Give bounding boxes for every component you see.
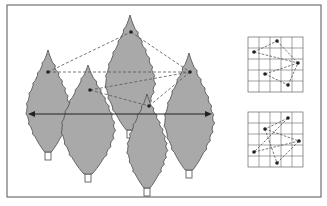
grid-top <box>248 37 303 92</box>
point-p4 <box>88 88 92 92</box>
point-p1 <box>46 70 50 74</box>
grid-diagrams <box>248 37 303 167</box>
grid-point <box>286 116 290 120</box>
trunk-icon <box>45 152 51 160</box>
grid-point <box>286 83 290 87</box>
grid-point <box>252 150 256 154</box>
grid-top-bottom <box>248 112 303 167</box>
grid-point <box>275 39 279 43</box>
point-p2 <box>129 30 133 34</box>
point-p3 <box>188 70 192 74</box>
grid-point <box>263 127 267 131</box>
point-p5 <box>147 104 151 108</box>
trunk-icon <box>186 170 192 178</box>
grid-point <box>297 139 301 143</box>
figure-canvas <box>0 0 327 206</box>
grid-point <box>275 161 279 165</box>
grid-point <box>296 61 300 65</box>
trees-group <box>26 15 215 196</box>
grid-point <box>263 72 267 76</box>
trunk-icon <box>144 188 150 196</box>
trunk-icon <box>85 174 91 182</box>
grid-point <box>252 50 256 54</box>
